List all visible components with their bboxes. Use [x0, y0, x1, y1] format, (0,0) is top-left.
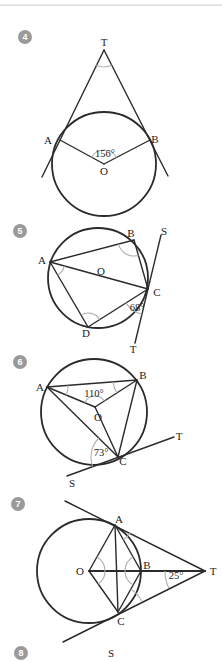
- d6-label-S: S: [69, 477, 75, 489]
- d6-label-O: O: [94, 411, 102, 423]
- d4-label-O: O: [100, 165, 108, 177]
- d7-radius-OA: [89, 525, 115, 571]
- geometry-figures-canvas: 4 T A B O 156° 5 A B C D O S T 68: [0, 0, 222, 662]
- d5-label-D: D: [82, 327, 90, 339]
- problem-4-figure: 4 T A B O 156°: [18, 30, 168, 216]
- d6-chord-AB: [47, 380, 137, 387]
- d5-label-C: C: [153, 286, 160, 298]
- problem-7-number: 7: [15, 499, 20, 509]
- problem-4-number: 4: [22, 32, 27, 42]
- problem-6-figure: 6 A B C O S T 110° 73°: [13, 355, 183, 489]
- d4-label-A: A: [44, 134, 52, 146]
- d7-label-A: A: [115, 513, 123, 525]
- d7-label-B: B: [143, 559, 150, 571]
- d7-chord-AC: [115, 525, 118, 612]
- problem-8-number: 8: [18, 648, 23, 658]
- d5-label-O: O: [97, 265, 105, 277]
- d8-label-S: S: [108, 647, 114, 659]
- d5-circle: [48, 228, 148, 328]
- problem-7-figure: 7 O A B C T 25°: [11, 497, 217, 642]
- d5-label-T: T: [130, 343, 137, 355]
- d7-label-O: O: [76, 565, 84, 577]
- textbook-page: 4 T A B O 156° 5 A B C D O S T 68: [0, 0, 222, 662]
- problem-5-number: 5: [17, 226, 22, 236]
- d6-label-A: A: [36, 381, 44, 393]
- d6-angle-arc-A: [66, 385, 68, 395]
- d6-label-B: B: [139, 369, 146, 381]
- d5-angle-arc-A: [58, 266, 65, 275]
- d4-label-T: T: [101, 36, 108, 48]
- d7-angle-value-T: 25°: [169, 570, 184, 581]
- d7-label-T: T: [210, 565, 217, 577]
- d6-angle-value-C: 73°: [94, 447, 109, 458]
- problem-6-number: 6: [17, 357, 22, 367]
- d5-label-A: A: [38, 254, 46, 266]
- page-top-rule: [0, 5, 222, 6]
- d7-tangent-TC: [63, 571, 205, 642]
- d4-angle-value-O: 156°: [95, 148, 115, 159]
- d4-angle-arc-T: [96, 65, 111, 67]
- problem-8-figure: 8 S: [14, 646, 114, 660]
- d6-label-T: T: [176, 430, 183, 442]
- d6-angle-value-O: 110°: [84, 388, 104, 399]
- d5-label-B: B: [127, 227, 134, 239]
- d6-angle-arc-B: [113, 382, 117, 393]
- d4-label-B: B: [151, 133, 158, 145]
- problem-5-figure: 5 A B C D O S T 68°: [13, 224, 167, 355]
- d5-angle-value-C: 68°: [130, 302, 145, 313]
- d5-chord-DA: [50, 262, 88, 327]
- d6-label-C: C: [119, 455, 126, 467]
- d5-label-S: S: [161, 225, 167, 237]
- d7-label-C: C: [117, 615, 124, 627]
